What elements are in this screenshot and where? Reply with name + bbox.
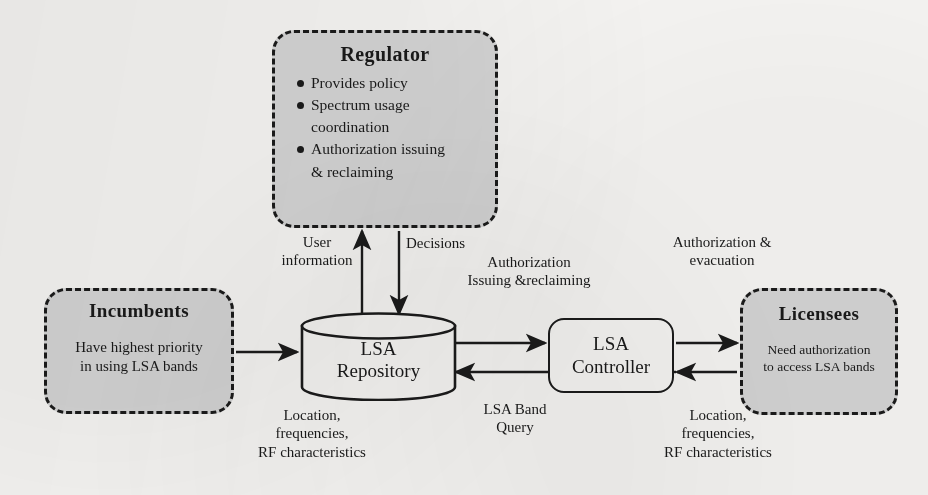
regulator-bullet-1: Provides policy [297,73,485,93]
regulator-bullet-2-cont: coordination [297,117,485,137]
incumbents-title: Incumbents [53,300,225,322]
edge-label-location-frequencies-right: Location, frequencies, RF characteristic… [634,406,802,461]
node-licensees[interactable]: Licensees Need authorization to access L… [740,288,898,415]
licensees-subtitle: Need authorization to access LSA bands [749,341,889,376]
lsa-controller-label: LSA Controller [572,333,650,378]
regulator-bullet-3: Authorization issuing [297,139,485,159]
lsa-repository-label: LSA Repository [300,338,457,383]
edge-label-authorization-evacuation: Authorization & evacuation [636,233,808,270]
regulator-bullet-3-cont: & reclaiming [297,162,485,182]
lsa-architecture-diagram: Regulator Provides policy Spectrum usage… [0,0,928,495]
node-regulator[interactable]: Regulator Provides policy Spectrum usage… [272,30,498,228]
edge-label-authorization-issuing-reclaiming: Authorization Issuing &reclaiming [438,253,620,290]
incumbents-subtitle: Have highest priority in using LSA bands [53,338,225,376]
edge-label-lsa-band-query: LSA Band Query [462,400,568,437]
regulator-bullet-list: Provides policy Spectrum usage coordinat… [283,73,487,182]
edge-label-location-frequencies-left: Location, frequencies, RF characteristic… [232,406,392,461]
node-lsa-controller[interactable]: LSA Controller [548,318,674,393]
node-lsa-repository[interactable]: LSA Repository [300,312,457,401]
licensees-title: Licensees [749,303,889,325]
edge-label-decisions: Decisions [406,234,502,252]
regulator-bullet-2: Spectrum usage [297,95,485,115]
node-incumbents[interactable]: Incumbents Have highest priority in usin… [44,288,234,414]
edge-label-user-information: User information [274,233,360,270]
regulator-title: Regulator [283,43,487,66]
